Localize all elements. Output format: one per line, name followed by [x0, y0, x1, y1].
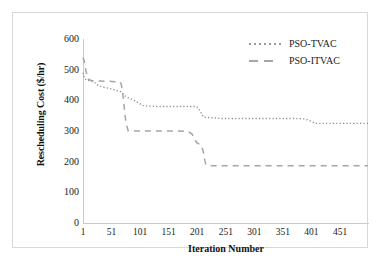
- series-line-pso-itvac: [83, 57, 368, 165]
- legend-item-pso-tvac: PSO-TVAC: [249, 35, 371, 52]
- x-axis-tick-text: 451: [323, 227, 357, 238]
- y-axis-tick-label: 400: [41, 95, 79, 105]
- y-axis-tick-text: 100: [47, 187, 79, 197]
- legend-item-pso-itvac: PSO-ITVAC: [249, 52, 371, 69]
- y-axis-tick-label: 200: [41, 157, 79, 167]
- y-axis-tick-label: 100: [41, 187, 79, 197]
- legend-marker-dotted-line: [249, 39, 283, 48]
- y-axis-tick-text: 500: [47, 65, 79, 75]
- legend-marker-dashed-line: [249, 56, 283, 65]
- y-axis-tick-text: 200: [47, 157, 79, 167]
- y-axis-tick-label: 500: [41, 65, 79, 75]
- y-axis-tick-text: 300: [47, 126, 79, 136]
- y-axis-title: Rescheduling Cost ($/hr): [35, 40, 46, 190]
- y-axis-tick-label: 600: [41, 34, 79, 44]
- x-axis-title: Iteration Number: [83, 243, 369, 254]
- legend-label-pso-tvac: PSO-TVAC: [289, 38, 337, 49]
- y-axis-tick-text: 600: [47, 34, 79, 44]
- figure-container: 0100200300400500600 15110115120125130135…: [0, 0, 379, 269]
- legend: PSO-TVAC PSO-ITVAC: [249, 35, 371, 69]
- y-axis-tick-label: 300: [41, 126, 79, 136]
- legend-label-pso-itvac: PSO-ITVAC: [289, 55, 340, 66]
- chart-frame: 0100200300400500600 15110115120125130135…: [12, 12, 368, 248]
- y-axis-tick-text: 400: [47, 95, 79, 105]
- x-axis-tick-label: 451: [323, 227, 357, 238]
- x-axis-line: [83, 223, 369, 224]
